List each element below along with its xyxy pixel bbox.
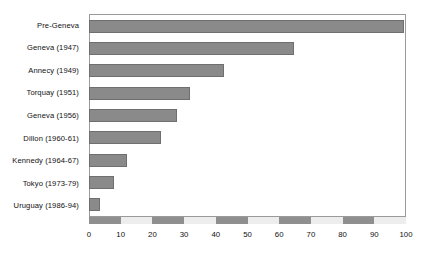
bar bbox=[89, 42, 294, 55]
x-tick-label: 30 bbox=[180, 230, 189, 239]
bar bbox=[89, 87, 190, 100]
bar-row bbox=[90, 37, 405, 59]
bars-layer bbox=[90, 15, 405, 216]
axis-band-segment bbox=[121, 217, 153, 224]
axis-band-segment bbox=[152, 217, 184, 224]
axis-band-segment bbox=[89, 217, 121, 224]
axis-band-segment bbox=[279, 217, 311, 224]
category-label: Dillon (1960-61) bbox=[0, 127, 84, 150]
plot-area bbox=[89, 14, 406, 217]
axis-band-segment bbox=[248, 217, 280, 224]
axis-band-segment bbox=[184, 217, 216, 224]
x-tick-label: 90 bbox=[370, 230, 379, 239]
category-label: Geneva (1947) bbox=[0, 37, 84, 60]
bar-row bbox=[90, 104, 405, 126]
category-label: Uruguay (1986-94) bbox=[0, 195, 84, 218]
category-label: Pre-Geneva bbox=[0, 14, 84, 37]
bar bbox=[89, 154, 127, 167]
category-label: Geneva (1956) bbox=[0, 104, 84, 127]
x-tick-label: 0 bbox=[87, 230, 91, 239]
bar bbox=[89, 20, 404, 33]
category-label: Annecy (1949) bbox=[0, 59, 84, 82]
x-tick-label: 100 bbox=[399, 230, 412, 239]
bar bbox=[89, 198, 100, 211]
bar bbox=[89, 131, 161, 144]
bar-row bbox=[90, 82, 405, 104]
bar-row bbox=[90, 171, 405, 193]
bar bbox=[89, 176, 114, 189]
bar-row bbox=[90, 60, 405, 82]
category-label: Kennedy (1964-67) bbox=[0, 149, 84, 172]
bar-chart: Pre-Geneva Geneva (1947) Annecy (1949) T… bbox=[0, 0, 428, 259]
bar-row bbox=[90, 127, 405, 149]
axis-band-segment bbox=[311, 217, 343, 224]
x-tick-label: 20 bbox=[148, 230, 157, 239]
bar bbox=[89, 109, 177, 122]
category-label: Tokyo (1973-79) bbox=[0, 172, 84, 195]
x-tick-label: 70 bbox=[307, 230, 316, 239]
x-tick-label: 60 bbox=[275, 230, 284, 239]
axis-band-segment bbox=[374, 217, 406, 224]
bar bbox=[89, 64, 224, 77]
category-label: Torquay (1951) bbox=[0, 82, 84, 105]
x-axis-tick-labels: 0102030405060708090100 bbox=[89, 230, 406, 244]
x-tick-label: 50 bbox=[243, 230, 252, 239]
category-axis-labels: Pre-Geneva Geneva (1947) Annecy (1949) T… bbox=[0, 14, 84, 217]
x-tick-label: 40 bbox=[211, 230, 220, 239]
x-axis-band bbox=[89, 217, 406, 224]
x-tick-label: 80 bbox=[338, 230, 347, 239]
x-tick-label: 10 bbox=[116, 230, 125, 239]
bar-row bbox=[90, 194, 405, 216]
axis-band-segment bbox=[216, 217, 248, 224]
axis-band-segment bbox=[343, 217, 375, 224]
bar-row bbox=[90, 149, 405, 171]
bar-row bbox=[90, 15, 405, 37]
